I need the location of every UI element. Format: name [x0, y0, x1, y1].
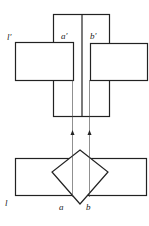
box-l-prime	[16, 43, 74, 81]
arrow-up-icon	[88, 130, 92, 135]
arrow-up-icon	[71, 130, 75, 135]
label-a: a	[59, 203, 64, 212]
diagram: l′ a′ b′ l a b	[0, 0, 149, 226]
label-l-prime: l′	[7, 33, 11, 42]
label-b: b	[86, 203, 91, 212]
label-l: l	[5, 199, 8, 208]
box-right	[91, 44, 148, 81]
label-b-prime: b′	[90, 32, 96, 41]
label-a-prime: a′	[61, 32, 67, 41]
projection-drawing	[0, 0, 149, 226]
